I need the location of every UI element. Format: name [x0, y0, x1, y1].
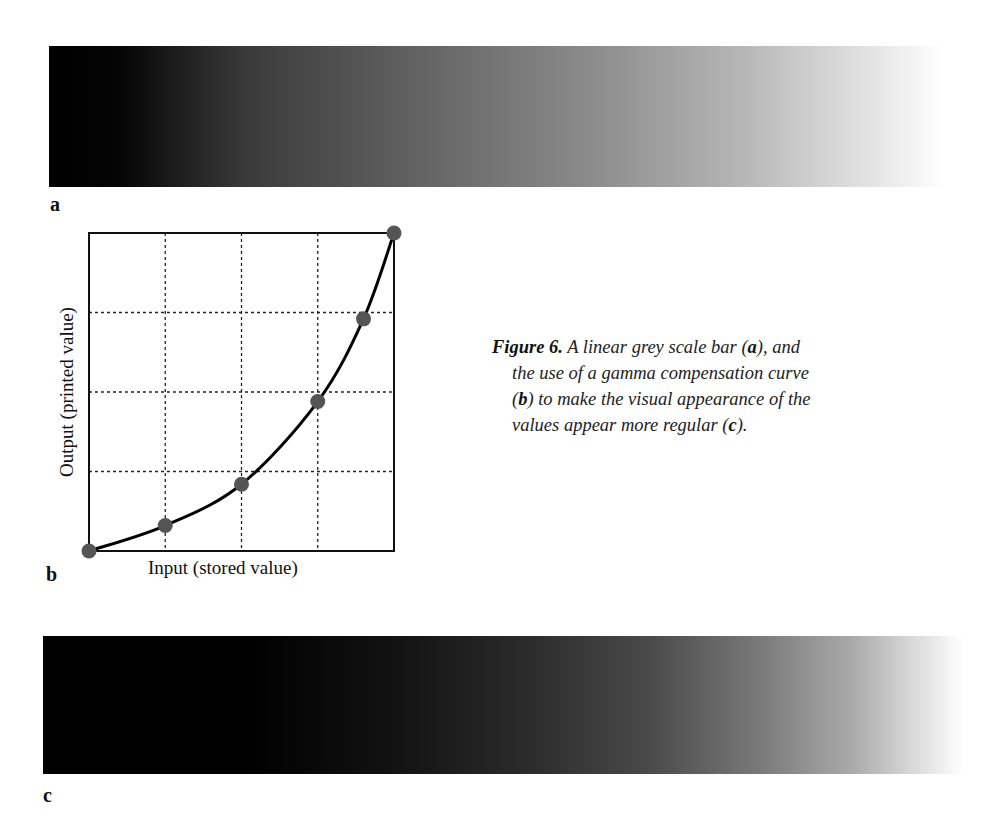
- caption-text: values appear more regular (: [512, 415, 728, 435]
- data-point-marker: [234, 477, 249, 492]
- figure-caption: Figure 6. A linear grey scale bar (a), a…: [492, 334, 932, 438]
- caption-text: ).: [737, 415, 748, 435]
- caption-text: ), and: [757, 337, 800, 357]
- panel-label-b: b: [46, 564, 57, 584]
- data-point-marker: [82, 544, 97, 559]
- y-axis-label: Output (printed value): [56, 307, 78, 477]
- panel-label-c: c: [43, 785, 52, 805]
- caption-text: A linear grey scale bar (: [563, 337, 748, 357]
- data-point-marker: [310, 394, 325, 409]
- caption-ref-a: a: [748, 337, 757, 357]
- data-point-marker: [356, 311, 371, 326]
- gamma-corrected-grey-scale-bar: [43, 636, 963, 774]
- x-axis-label: Input (stored value): [148, 557, 298, 579]
- caption-text: the use of a gamma compensation curve: [492, 360, 932, 386]
- data-point-marker: [158, 518, 173, 533]
- data-point-marker: [387, 226, 402, 241]
- grid-lines: [89, 233, 394, 551]
- caption-text: ) to make the visual appearance of the: [527, 389, 810, 409]
- caption-ref-c: c: [728, 415, 736, 435]
- figure-number: Figure 6.: [492, 337, 563, 357]
